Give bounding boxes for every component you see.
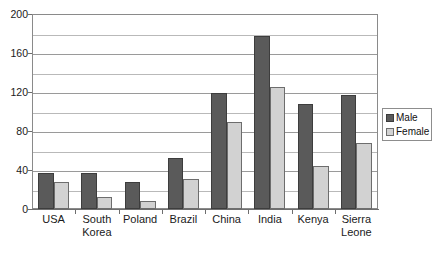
bar-male xyxy=(125,182,141,209)
bars-layer xyxy=(32,14,378,209)
legend-item-female: Female xyxy=(386,125,429,139)
bar-group xyxy=(75,14,118,209)
y-axis-tick-label: 80 xyxy=(2,126,28,136)
y-axis-labels: 04080120160200 xyxy=(0,0,28,262)
y-axis-tick-label: 120 xyxy=(2,87,28,97)
x-axis-category-label-line: Sierra xyxy=(329,213,384,226)
y-axis-tick-label: 160 xyxy=(2,48,28,58)
bar-group xyxy=(32,14,75,209)
bar-male xyxy=(38,173,54,209)
y-axis-tick-label: 200 xyxy=(2,9,28,19)
bar-group xyxy=(248,14,291,209)
bar-female xyxy=(97,197,113,209)
bar-female xyxy=(227,122,243,209)
x-axis-category-label-line: Korea xyxy=(69,226,124,239)
y-axis-tick-label: 0 xyxy=(2,204,28,214)
legend-item-male: Male xyxy=(386,111,429,125)
legend-swatch-female-icon xyxy=(386,128,394,136)
x-axis-category-label: SierraLeone xyxy=(329,213,384,239)
bar-group xyxy=(162,14,205,209)
bar-male xyxy=(341,95,357,209)
bar-female xyxy=(270,87,286,209)
bar-female xyxy=(54,182,70,209)
legend-label-male: Male xyxy=(396,113,418,123)
bar-group xyxy=(205,14,248,209)
x-axis-category-label-line: Leone xyxy=(329,226,384,239)
legend-swatch-male-icon xyxy=(386,114,394,122)
y-axis-tick xyxy=(27,14,32,15)
y-axis-tick xyxy=(27,131,32,132)
bar-group xyxy=(119,14,162,209)
bar-male xyxy=(254,36,270,209)
legend-label-female: Female xyxy=(396,127,429,137)
bar-female xyxy=(183,179,199,209)
bar-male xyxy=(168,158,184,209)
y-axis-tick xyxy=(27,92,32,93)
y-axis-tick xyxy=(27,170,32,171)
bar-group xyxy=(292,14,335,209)
y-axis-tick-label: 40 xyxy=(2,165,28,175)
chart-legend: Male Female xyxy=(382,108,432,141)
x-axis-category-labels: USASouthKoreaPolandBrazilChinaIndiaKenya… xyxy=(32,213,378,259)
bar-chart: 04080120160200 USASouthKoreaPolandBrazil… xyxy=(0,0,442,262)
bar-male xyxy=(211,93,227,209)
bar-male xyxy=(298,104,314,209)
bar-female xyxy=(140,201,156,209)
bar-group xyxy=(335,14,378,209)
bar-female xyxy=(313,166,329,209)
y-axis-tick xyxy=(27,209,32,210)
y-axis-tick xyxy=(27,53,32,54)
bar-female xyxy=(356,143,372,209)
bar-male xyxy=(81,173,97,209)
